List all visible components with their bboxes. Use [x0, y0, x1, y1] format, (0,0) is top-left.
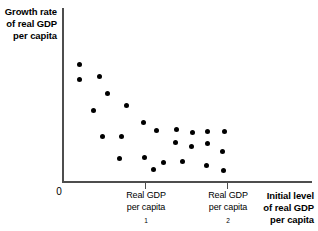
x-axis-line: [62, 181, 312, 183]
x-axis-label-line-2: of real GDP: [254, 202, 314, 214]
y-axis-line: [62, 8, 64, 183]
data-point: [222, 129, 227, 134]
x-axis-tick-2: [227, 183, 228, 189]
data-point: [220, 149, 225, 154]
y-axis-label-line-2: of real GDP: [0, 18, 57, 30]
y-axis-label-line-3: per capita: [0, 30, 57, 42]
data-point: [97, 74, 102, 79]
y-axis-label-line-1: Growth rate: [0, 6, 57, 18]
x-tick-label-1-subscript: 1: [144, 217, 148, 224]
x-tick-label-2-subscript: 2: [226, 217, 230, 224]
data-point: [105, 91, 110, 96]
data-point: [151, 167, 156, 172]
data-point: [77, 77, 82, 82]
scatter-plot-figure: Growth rate of real GDP per capita 0 Rea…: [0, 0, 318, 231]
data-point: [174, 127, 179, 132]
x-axis-label-line-3: per capita: [254, 214, 314, 226]
data-point: [204, 163, 209, 168]
data-point: [154, 128, 159, 133]
origin-label: 0: [52, 186, 66, 197]
data-point: [91, 108, 96, 113]
data-point: [124, 103, 129, 108]
data-point: [173, 140, 178, 145]
data-point: [141, 120, 146, 125]
data-point: [161, 160, 166, 165]
data-point: [205, 141, 210, 146]
x-axis-label: Initial level of real GDP per capita: [254, 190, 318, 227]
data-point: [119, 134, 124, 139]
data-point: [117, 156, 122, 161]
data-point: [100, 134, 105, 139]
x-tick-label-1-line-1: Real GDP: [104, 190, 188, 202]
x-tick-label-1-text: per capita: [104, 202, 188, 214]
data-point: [221, 168, 226, 173]
x-tick-label-1-line-2: per capita1: [104, 202, 188, 225]
x-tick-label-real-gdp-per-capita-1: Real GDP per capita1: [104, 190, 188, 225]
y-axis-label: Growth rate of real GDP per capita: [0, 6, 57, 43]
data-point: [190, 130, 195, 135]
data-point: [142, 155, 147, 160]
x-axis-label-line-1: Initial level: [254, 190, 314, 202]
x-axis-tick-1: [145, 183, 146, 189]
data-point: [77, 62, 82, 67]
data-point: [189, 144, 194, 149]
data-point: [205, 129, 210, 134]
data-point: [180, 159, 185, 164]
